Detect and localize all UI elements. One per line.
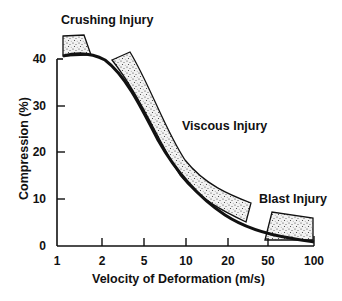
crushing-injury-label: Crushing Injury — [61, 13, 153, 27]
x-tick-label: 10 — [179, 254, 192, 268]
x-tick-label: 100 — [304, 254, 324, 268]
y-tick-label: 0 — [22, 239, 46, 253]
x-tick-label: 1 — [54, 254, 61, 268]
viscous-injury-label: Viscous Injury — [182, 119, 267, 133]
y-ticks — [57, 106, 65, 199]
chart-canvas — [0, 0, 342, 301]
y-axis-title: Compression (%) — [17, 100, 31, 200]
x-tick-label: 50 — [261, 254, 274, 268]
y-tick-label: 40 — [22, 52, 46, 66]
viscous-injury-region — [112, 52, 251, 222]
x-tick-label: 5 — [141, 254, 148, 268]
x-tick-label: 2 — [99, 254, 106, 268]
blast-injury-label: Blast Injury — [259, 192, 327, 206]
x-tick-label: 20 — [221, 254, 234, 268]
x-axis-title: Velocity of Deformation (m/s) — [92, 272, 265, 286]
